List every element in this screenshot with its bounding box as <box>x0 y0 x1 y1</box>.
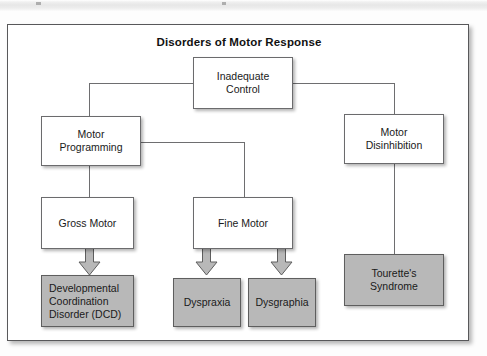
node-label: Dysgraphia <box>255 296 308 309</box>
node-label: Motor Programming <box>59 128 122 154</box>
scan-speck <box>222 2 226 5</box>
diagram-title: Disorders of Motor Response <box>8 36 470 48</box>
edge-inadequate-to-motor-programming-h <box>89 83 193 84</box>
diagram-frame: Disorders of Motor Response Inadeq <box>7 24 469 341</box>
edge-motor-programming-to-fine-motor-v <box>244 142 245 197</box>
node-gross-motor[interactable]: Gross Motor <box>41 197 134 249</box>
edge-motor-programming-to-fine-motor-h <box>141 142 244 143</box>
node-label: Inadequate Control <box>217 70 270 96</box>
node-motor-disinhibition[interactable]: Motor Disinhibition <box>344 114 444 164</box>
node-inadequate-control[interactable]: Inadequate Control <box>193 57 293 109</box>
node-label: Dyspraxia <box>184 296 231 309</box>
scan-speck <box>36 2 41 5</box>
node-label: Fine Motor <box>218 217 268 230</box>
edge-inadequate-to-motor-programming-v <box>89 83 90 116</box>
node-label: Tourette's Syndrome <box>370 267 418 293</box>
node-dyspraxia[interactable]: Dyspraxia <box>173 278 241 327</box>
node-developmental-coordination-disorder[interactable]: Developmental Coordination Disorder (DCD… <box>41 275 134 327</box>
node-label: Gross Motor <box>59 217 117 230</box>
edge-motor-programming-to-gross-motor <box>89 166 90 197</box>
node-motor-programming[interactable]: Motor Programming <box>41 116 141 166</box>
figure-container: Disorders of Motor Response Inadeq <box>0 0 487 356</box>
edge-motor-disinhibition-to-tourettes <box>394 164 395 254</box>
block-arrow-fine-motor-to-dyspraxia <box>195 247 218 276</box>
node-tourettes-syndrome[interactable]: Tourette's Syndrome <box>344 254 444 306</box>
node-fine-motor[interactable]: Fine Motor <box>193 197 293 249</box>
edge-inadequate-to-motor-disinhibition-v <box>394 83 395 114</box>
node-label: Motor Disinhibition <box>366 126 423 152</box>
node-label: Developmental Coordination Disorder (DCD… <box>49 282 121 321</box>
edge-inadequate-to-motor-disinhibition-h <box>293 83 394 84</box>
block-arrow-gross-motor-to-dcd <box>78 247 101 276</box>
block-arrow-fine-motor-to-dysgraphia <box>270 247 293 276</box>
node-dysgraphia[interactable]: Dysgraphia <box>248 278 316 327</box>
scan-artifact-strip <box>0 0 487 11</box>
